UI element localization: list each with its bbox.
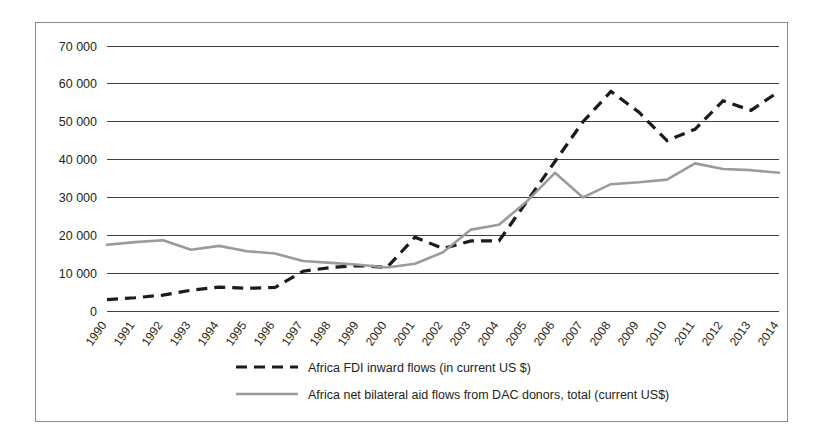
x-axis-tick-label: 2001 <box>391 318 418 348</box>
x-axis-tick-label: 2010 <box>643 318 670 348</box>
chart-figure: 010 00020 00030 00040 00050 00060 00070 … <box>35 22 788 422</box>
x-axis-tick-label: 1997 <box>279 318 306 348</box>
x-axis-tick-label: 2002 <box>419 318 446 348</box>
x-axis-tick-label: 2013 <box>727 318 754 348</box>
x-axis-tick-label: 2007 <box>559 318 586 348</box>
chart-plot-wrapper: 010 00020 00030 00040 00050 00060 00070 … <box>36 23 789 423</box>
x-axis-tick-label: 1998 <box>307 318 334 348</box>
x-axis-tick-label: 2011 <box>671 318 697 347</box>
y-axis-tick-label: 60 000 <box>59 77 97 91</box>
x-axis-tick-label: 2004 <box>475 318 502 348</box>
line-chart: 010 00020 00030 00040 00050 00060 00070 … <box>36 23 789 423</box>
x-axis-tick-label: 1999 <box>335 318 362 348</box>
y-axis-tick-label: 50 000 <box>59 115 97 129</box>
y-axis-tick-label: 0 <box>90 305 97 319</box>
x-axis-tick-label: 1990 <box>83 318 110 348</box>
y-axis-tick-label: 30 000 <box>59 191 97 205</box>
x-axis-tick-label: 2006 <box>531 318 558 348</box>
series-line-aid <box>107 163 779 267</box>
x-axis-tick-label: 2005 <box>503 318 530 348</box>
x-axis-tick-label: 1992 <box>139 318 166 348</box>
y-axis-tick-label: 20 000 <box>59 229 97 243</box>
legend-label: Africa net bilateral aid flows from DAC … <box>308 388 669 402</box>
x-axis-tick-label: 2008 <box>587 318 614 348</box>
x-axis-tick-label: 2000 <box>363 318 390 348</box>
x-axis-tick-label: 2014 <box>755 318 782 348</box>
x-axis-tick-label: 1991 <box>111 318 138 348</box>
x-axis-tick-label: 2009 <box>615 318 642 348</box>
x-axis-tick-label: 1996 <box>251 318 278 348</box>
x-axis-tick-label: 1994 <box>195 318 222 348</box>
y-axis-tick-label: 70 000 <box>59 40 97 54</box>
x-axis-tick-label: 2003 <box>447 318 474 348</box>
series-line-fdi <box>107 91 779 299</box>
x-axis-tick-label: 1993 <box>167 318 194 348</box>
x-axis-tick-label: 1995 <box>223 318 250 348</box>
y-axis-tick-label: 10 000 <box>59 267 97 281</box>
y-axis-tick-label: 40 000 <box>59 153 97 167</box>
legend-label: Africa FDI inward flows (in current US $… <box>308 361 531 375</box>
x-axis-tick-label: 2012 <box>699 318 726 348</box>
